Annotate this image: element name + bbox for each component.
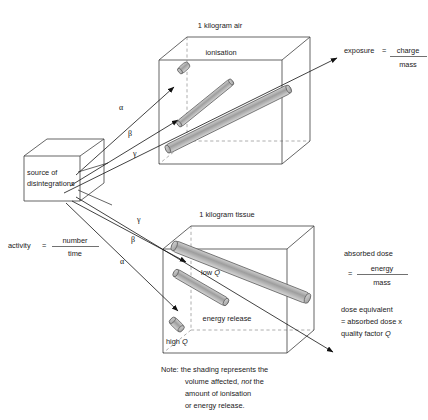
- ray-gamma-tissue: [76, 197, 333, 352]
- note-block: Note: the shading represents the volume …: [161, 365, 268, 410]
- radiation-quantities-diagram: 1 kilogram air ionisation 1 kilogram tis…: [0, 0, 428, 420]
- activity-numerator: number: [62, 236, 88, 245]
- air-cube-title: 1 kilogram air: [198, 21, 243, 30]
- absorbed-dose-lhs: absorbed dose: [344, 249, 393, 258]
- absorbed-dose-equals: =: [348, 269, 352, 278]
- tissue-cube-title: 1 kilogram tissue: [199, 210, 254, 219]
- air-ray-group: α β γ: [64, 58, 337, 193]
- activity-denominator: time: [68, 249, 82, 258]
- ray-label-beta-tissue: β: [131, 235, 135, 244]
- absorbed-dose-numerator: energy: [371, 264, 394, 273]
- activity-equals: =: [42, 241, 46, 250]
- high-q-label: high Q: [166, 337, 188, 346]
- formula-exposure: exposure = charge mass: [344, 46, 427, 69]
- ionisation-label: ionisation: [205, 48, 236, 57]
- formula-dose-equivalent: dose equivalent = absorbed dose x qualit…: [341, 305, 402, 338]
- tissue-ray-group: γ β α: [66, 197, 333, 352]
- ray-beta-air: [70, 120, 178, 186]
- dose-equivalent-line3: quality factor Q: [341, 329, 391, 338]
- track-alpha-tissue: [168, 316, 186, 333]
- ray-beta-tissue: [72, 201, 186, 262]
- ray-label-gamma-air: γ: [132, 149, 137, 158]
- source-cube-top-face: [24, 139, 104, 156]
- exposure-lhs: exposure: [344, 46, 374, 55]
- exposure-denominator: mass: [399, 60, 417, 69]
- diagram-canvas: 1 kilogram air ionisation 1 kilogram tis…: [0, 0, 428, 420]
- ray-label-alpha-tissue: α: [120, 257, 125, 266]
- source-leader-lower: [78, 190, 112, 205]
- track-alpha-air: [176, 61, 191, 75]
- absorbed-dose-denominator: mass: [373, 278, 391, 287]
- dose-equivalent-line2: = absorbed dose x: [341, 317, 402, 326]
- formula-activity: activity = number time: [8, 236, 99, 258]
- source-cube: source of disintegrations: [24, 139, 112, 205]
- note-line-2: volume affected, not the: [185, 377, 264, 386]
- formula-absorbed-dose: absorbed dose = energy mass: [344, 249, 408, 287]
- note-line-1: Note: the shading represents the: [161, 365, 268, 374]
- note-line-3: amount of ionisation: [185, 389, 251, 398]
- note-line-4: or energy release.: [185, 401, 245, 410]
- exposure-numerator: charge: [397, 46, 420, 55]
- activity-lhs: activity: [8, 241, 31, 250]
- track-gamma-tissue: [170, 240, 312, 305]
- source-label-line2: disintegrations: [27, 179, 75, 188]
- ray-gamma-air: [64, 58, 337, 193]
- exposure-equals: =: [382, 46, 386, 55]
- dose-equivalent-line1: dose equivalent: [341, 305, 393, 314]
- ray-label-beta-air: β: [128, 129, 132, 138]
- source-label-line1: source of: [27, 168, 58, 177]
- ray-label-gamma-tissue: γ: [136, 215, 141, 224]
- ray-label-alpha-air: α: [119, 103, 124, 112]
- low-q-label: low Q: [201, 268, 220, 277]
- source-leader-upper: [78, 163, 108, 172]
- energy-release-label: energy release: [203, 314, 252, 323]
